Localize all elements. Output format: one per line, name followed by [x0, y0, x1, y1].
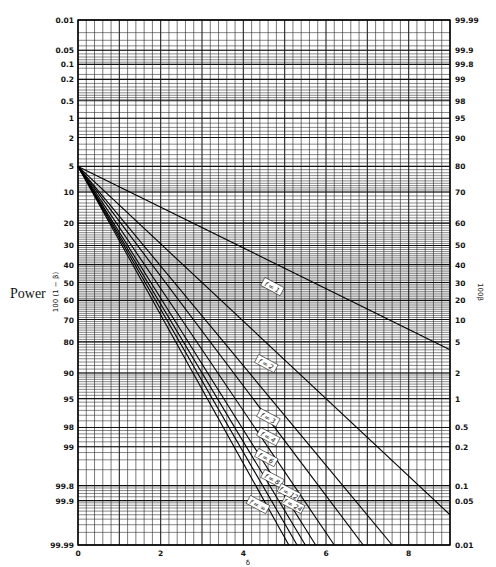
svg-text:80: 80 — [64, 338, 74, 347]
svg-text:1: 1 — [69, 114, 74, 123]
curve-label: f = 2 — [254, 354, 278, 373]
curve-line — [78, 166, 450, 349]
svg-text:10: 10 — [64, 188, 74, 197]
curve-label: f = 6 — [254, 448, 278, 467]
svg-text:0.5: 0.5 — [455, 423, 468, 432]
svg-text:98: 98 — [455, 97, 465, 106]
right-axis-label: 100β — [476, 283, 484, 301]
svg-text:4: 4 — [241, 549, 246, 558]
svg-text:0.01: 0.01 — [55, 16, 74, 25]
svg-text:40: 40 — [455, 261, 465, 270]
svg-text:2: 2 — [69, 134, 74, 143]
svg-text:40: 40 — [64, 261, 74, 270]
svg-text:0.05: 0.05 — [455, 497, 474, 506]
svg-text:95: 95 — [64, 395, 74, 404]
svg-text:0.1: 0.1 — [61, 60, 74, 69]
x-axis-label: δ — [246, 559, 250, 567]
svg-text:0: 0 — [75, 549, 80, 558]
right-axis-ticks: 99.9999.999.8999895908070605040302010521… — [455, 16, 479, 550]
x-axis-ticks: 02468 — [75, 549, 411, 558]
svg-text:99.9: 99.9 — [55, 497, 74, 506]
left-axis-label: 100 (1 − β) — [52, 272, 60, 313]
svg-text:0.2: 0.2 — [61, 75, 74, 84]
svg-text:10: 10 — [455, 316, 465, 325]
svg-text:0.05: 0.05 — [55, 46, 74, 55]
power-side-label: Power — [10, 286, 46, 302]
svg-text:0.1: 0.1 — [455, 482, 468, 491]
svg-text:30: 30 — [455, 279, 465, 288]
svg-text:f = 8: f = 8 — [263, 472, 281, 487]
svg-text:20: 20 — [455, 296, 465, 305]
svg-text:70: 70 — [64, 316, 74, 325]
svg-text:99.99: 99.99 — [455, 16, 479, 25]
svg-text:99.8: 99.8 — [55, 482, 74, 491]
svg-text:99: 99 — [64, 443, 74, 452]
svg-text:0.2: 0.2 — [455, 443, 468, 452]
svg-text:5: 5 — [455, 338, 460, 347]
svg-text:6: 6 — [323, 549, 328, 558]
svg-text:2: 2 — [455, 369, 460, 378]
svg-text:99.99: 99.99 — [50, 541, 74, 550]
svg-text:50: 50 — [64, 279, 74, 288]
curve-labels: f = 1f = 2f = 3f = 4f = 6f = 8f = 12f = … — [246, 277, 305, 514]
svg-text:99.8: 99.8 — [455, 60, 474, 69]
svg-text:70: 70 — [455, 188, 465, 197]
svg-text:5: 5 — [69, 162, 74, 171]
svg-text:60: 60 — [455, 219, 465, 228]
svg-text:60: 60 — [64, 296, 74, 305]
svg-text:90: 90 — [455, 134, 465, 143]
svg-text:99.9: 99.9 — [455, 46, 474, 55]
svg-text:50: 50 — [455, 241, 465, 250]
svg-text:30: 30 — [64, 241, 74, 250]
svg-text:90: 90 — [64, 369, 74, 378]
svg-text:0.5: 0.5 — [61, 97, 74, 106]
power-chart: 0.010.050.10.20.512510203040506070809095… — [0, 0, 496, 567]
svg-text:1: 1 — [455, 395, 460, 404]
svg-text:0.01: 0.01 — [455, 541, 474, 550]
svg-text:80: 80 — [455, 162, 465, 171]
svg-text:8: 8 — [406, 549, 411, 558]
svg-text:20: 20 — [64, 219, 74, 228]
svg-text:95: 95 — [455, 114, 465, 123]
svg-text:98: 98 — [64, 423, 74, 432]
svg-text:99: 99 — [455, 75, 465, 84]
svg-text:2: 2 — [158, 549, 163, 558]
